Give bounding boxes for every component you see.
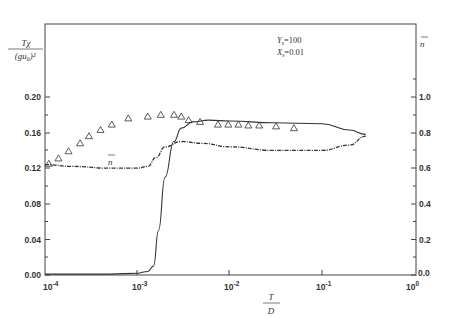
y-right-title: n [420, 37, 428, 49]
data-marker-triangle [225, 121, 232, 127]
svg-text:n: n [108, 157, 113, 167]
svg-text:Tχ: Tχ [22, 38, 32, 48]
left-y-tick-labels: 0.00 0.04 0.08 0.12 0.16 0.20 [24, 92, 41, 280]
tick-label: 0.20 [24, 92, 41, 102]
series-line-nbar [45, 136, 366, 168]
data-marker-triangle [157, 111, 164, 117]
data-marker-triangle [97, 126, 104, 132]
tick-label: 10-2 [224, 280, 240, 292]
data-marker-triangle [144, 113, 151, 119]
tick-label: 0.00 [24, 270, 41, 280]
svg-text:(gub)²: (gub)² [15, 51, 36, 62]
svg-text:D: D [267, 306, 275, 316]
tick-label: 0.2 [419, 235, 431, 245]
data-marker-triangle [65, 148, 72, 154]
tick-label: 10-3 [132, 280, 148, 292]
data-marker-triangle [86, 133, 93, 139]
svg-text:T: T [268, 292, 274, 302]
x-axis [137, 270, 322, 275]
data-marker-triangle [245, 122, 252, 128]
data-marker-triangle [290, 125, 297, 131]
tick-label: 0.4 [419, 199, 431, 209]
data-marker-triangle [235, 121, 242, 127]
x-title: T D [263, 292, 280, 316]
parameter-annotation: Ys=100 Xs=0.01 [276, 35, 304, 58]
y-left-title: Tχ (gub)² [8, 38, 43, 62]
tick-label: 10-1 [316, 280, 332, 292]
svg-text:Ys=100: Ys=100 [277, 35, 301, 46]
tick-label: 0.08 [24, 199, 41, 209]
left-y-axis [45, 97, 50, 275]
data-marker-triangle [125, 115, 132, 121]
data-marker-triangle [170, 111, 177, 117]
tick-label: 0.0 [418, 268, 430, 278]
tick-label: 0.16 [24, 128, 41, 138]
svg-text:Xs=0.01: Xs=0.01 [276, 47, 304, 58]
right-y-tick-labels: 0.0 0.2 0.4 0.6 0.8 1.0 [418, 92, 431, 278]
curve-label-nbar: n [108, 155, 115, 167]
data-marker-triangle [77, 140, 84, 146]
data-marker-triangle [55, 155, 62, 161]
data-marker-triangle [178, 113, 185, 119]
tick-label: 0.04 [24, 235, 41, 245]
svg-text:n: n [420, 39, 425, 49]
right-y-axis [411, 79, 416, 275]
tick-label: 0.6 [419, 163, 431, 173]
tick-label: 0.12 [24, 163, 41, 173]
data-marker-triangle [108, 121, 115, 127]
data-marker-triangle [273, 123, 280, 129]
tick-label: 100 [406, 280, 419, 292]
tick-label: 1.0 [419, 92, 431, 102]
x-tick-labels: 10-4 10-3 10-2 10-1 100 [43, 280, 419, 292]
chart: 0.00 0.04 0.08 0.12 0.16 0.20 0.0 0.2 0.… [0, 0, 453, 323]
plot-frame [45, 24, 416, 275]
series-layer [45, 111, 366, 274]
data-marker-triangle [214, 121, 221, 127]
tick-label: 0.8 [419, 128, 431, 138]
tick-label: 10-4 [43, 280, 59, 292]
